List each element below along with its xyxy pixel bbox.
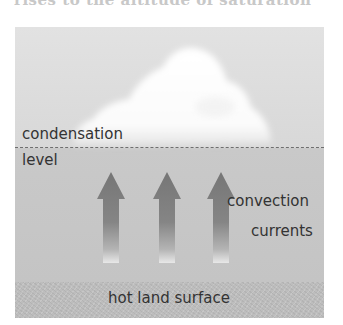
caption-text-clipped: rises to the altitude of saturation <box>14 0 334 5</box>
currents-label: currents <box>251 222 313 240</box>
up-arrow-icon <box>153 172 181 263</box>
up-arrow-icon <box>207 172 235 263</box>
convection-diagram: condensation level convection currents h… <box>15 27 324 318</box>
level-label: level <box>22 151 58 169</box>
up-arrow-icon <box>97 172 125 263</box>
convection-label: convection <box>227 192 309 210</box>
condensation-label: condensation <box>22 125 123 143</box>
hot-land-surface-label: hot land surface <box>108 289 230 307</box>
